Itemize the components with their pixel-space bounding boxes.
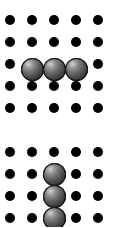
lattice-atom: [93, 81, 103, 91]
lattice-atom: [5, 15, 15, 25]
lattice-atom: [71, 191, 81, 201]
lattice-atom: [71, 213, 81, 223]
lattice-atom: [5, 213, 15, 223]
lattice-atom: [5, 59, 15, 69]
lattice-atom: [93, 191, 103, 201]
lattice-atom: [49, 103, 59, 113]
lattice-atom: [71, 147, 81, 157]
figure-root: [0, 0, 119, 227]
lattice-atom: [71, 81, 81, 91]
lattice-atom: [71, 169, 81, 179]
lattice-atom: [27, 81, 37, 91]
adsorbate-sphere: [43, 163, 66, 186]
lattice-atom: [93, 147, 103, 157]
lattice-atom: [27, 169, 37, 179]
lattice-atom: [49, 37, 59, 47]
lattice-atom: [5, 81, 15, 91]
lattice-atom: [93, 213, 103, 223]
lattice-atom: [49, 81, 59, 91]
lattice-atom: [5, 169, 15, 179]
lattice-atom: [71, 37, 81, 47]
lattice-atom: [49, 147, 59, 157]
lattice-atom: [27, 147, 37, 157]
panel-bottom-vertical-chain: [0, 132, 119, 227]
lattice-atom: [93, 15, 103, 25]
adsorbate-sphere: [65, 58, 88, 81]
lattice-atom: [5, 147, 15, 157]
lattice-atom: [71, 103, 81, 113]
lattice-atom: [93, 37, 103, 47]
lattice-atom: [27, 103, 37, 113]
lattice-atom: [5, 37, 15, 47]
lattice-atom: [5, 103, 15, 113]
adsorbate-sphere: [43, 185, 66, 208]
adsorbate-sphere: [43, 58, 66, 81]
lattice-atom: [93, 59, 103, 69]
lattice-atom: [93, 169, 103, 179]
adsorbate-sphere: [43, 207, 66, 228]
lattice-atom: [27, 191, 37, 201]
lattice-atom: [27, 213, 37, 223]
lattice-atom: [49, 15, 59, 25]
lattice-atom: [5, 191, 15, 201]
lattice-atom: [71, 15, 81, 25]
lattice-atom: [93, 103, 103, 113]
lattice-atom: [27, 15, 37, 25]
lattice-atom: [27, 37, 37, 47]
panel-top-horizontal-trimer: [0, 0, 119, 122]
adsorbate-sphere: [21, 58, 44, 81]
